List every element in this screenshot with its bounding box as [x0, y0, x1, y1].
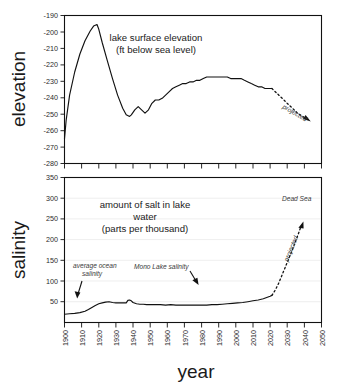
xtick-label: 1900 — [61, 330, 70, 346]
xtick-label: 2030 — [283, 330, 292, 346]
xtick-label: 2000 — [232, 330, 241, 346]
salinity-ytick-label: 100 — [46, 277, 58, 286]
mono-lake-figure: -190 -200 -210 -220 -230 -240 -250 -260 … — [0, 0, 342, 389]
xtick-label: 1930 — [112, 330, 121, 346]
elevation-y-ticks — [61, 16, 65, 164]
xtick-label: 1940 — [129, 330, 138, 346]
elevation-panel: -190 -200 -210 -220 -230 -240 -250 -260 … — [8, 11, 322, 169]
xtick-label: 2020 — [266, 330, 275, 346]
xtick-label: 2050 — [318, 330, 327, 346]
salinity-ytick-label: 150 — [46, 256, 58, 265]
salinity-axis-title: salinity — [8, 220, 29, 279]
elevation-ytick-label: -210 — [44, 44, 58, 53]
salinity-title-line1: amount of salt in lake — [100, 199, 191, 210]
elevation-ytick-label: -260 — [44, 126, 58, 135]
annotation-average-ocean-salinity-line2: salinity — [82, 270, 103, 278]
xtick-label: 1910 — [78, 330, 87, 346]
salinity-title-line3: (parts per thousand) — [102, 223, 188, 234]
annotation-mono-lake-salinity: Mono Lake salinity — [134, 263, 189, 271]
elevation-ytick-label: -280 — [44, 159, 58, 168]
xtick-label: 1950 — [146, 330, 155, 346]
salinity-ytick-label: 200 — [46, 235, 58, 244]
x-axis-title: year — [178, 361, 216, 382]
salinity-title-line2: water — [132, 211, 157, 222]
elevation-ytick-label: -190 — [44, 11, 58, 20]
xtick-label: 1960 — [163, 330, 172, 346]
elevation-ytick-label: -270 — [44, 143, 58, 152]
salinity-ytick-label: 300 — [46, 194, 58, 203]
xtick-label: 1990 — [215, 330, 224, 346]
xtick-label: 2010 — [249, 330, 258, 346]
salinity-y-ticks — [61, 178, 65, 302]
elevation-y-axis: -190 -200 -210 -220 -230 -240 -250 -260 … — [44, 11, 65, 168]
elevation-axis-title: elevation — [8, 51, 29, 127]
elevation-ytick-label: -230 — [44, 77, 58, 86]
elevation-title-line2: (ft below sea level) — [116, 44, 196, 55]
salinity-ytick-label: 50 — [50, 297, 58, 306]
xtick-label: 1970 — [181, 330, 190, 346]
elevation-ytick-label: -220 — [44, 60, 58, 69]
salinity-ytick-label: 350 — [46, 173, 58, 182]
salinity-x-tick-labels: 1900 1910 1920 1930 1940 1950 1960 1970 … — [61, 330, 327, 346]
elevation-x-ticks — [65, 164, 322, 169]
xtick-label: 1980 — [198, 330, 207, 346]
xtick-label: 1920 — [95, 330, 104, 346]
elevation-ytick-label: -250 — [44, 110, 58, 119]
elevation-ytick-label: -200 — [44, 28, 58, 37]
salinity-y-axis: 350 300 250 200 150 100 50 — [46, 173, 65, 306]
elevation-ytick-label: -240 — [44, 93, 58, 102]
elevation-title-line1: lake surface elevation — [110, 32, 203, 43]
xtick-label: 2040 — [301, 330, 310, 346]
annotation-dead-sea: Dead Sea — [282, 195, 312, 202]
salinity-ytick-label: 250 — [46, 214, 58, 223]
salinity-panel: 350 300 250 200 150 100 50 — [8, 173, 327, 346]
annotation-average-ocean-salinity-line1: average ocean — [73, 262, 117, 270]
figure-svg: -190 -200 -210 -220 -230 -240 -250 -260 … — [0, 0, 342, 389]
salinity-x-ticks — [65, 323, 322, 328]
